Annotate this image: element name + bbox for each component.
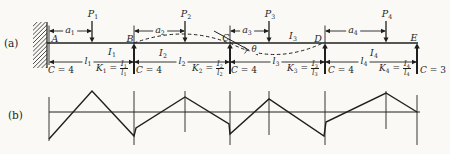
stiffness-factor-K4: K4 = I4l4 <box>379 60 411 77</box>
panel-b-tag: (b) <box>8 110 23 121</box>
load-label-P3: P3 <box>265 9 275 19</box>
segment-label-I4: I4 <box>370 48 378 58</box>
hatch-line <box>21 22 67 68</box>
a-dim-arrow <box>325 29 330 33</box>
carryover-factor-8: C = 3 <box>420 66 446 75</box>
carryover-factor-6: C = 4 <box>328 66 354 75</box>
load-arrow-head <box>90 38 95 43</box>
load-arrow-head <box>384 38 389 43</box>
span-dim-label-l2: l2 <box>176 56 187 66</box>
node-label-D: D <box>314 34 322 44</box>
carryover-factor-0: C = 4 <box>48 66 74 75</box>
load-label-P4: P4 <box>382 9 392 19</box>
a-dim-arrow <box>134 29 139 33</box>
span-dim-label-l4: l4 <box>358 56 369 66</box>
elastic-curve-hump <box>134 34 229 43</box>
a-dim-arrow <box>180 29 185 33</box>
span-dim-label-l1: l1 <box>82 56 93 66</box>
theta-label: θ <box>249 45 258 54</box>
segment-label-I1: I1 <box>108 47 116 57</box>
support-arrow-head <box>414 43 420 48</box>
segment-label-I3: I3 <box>289 31 297 41</box>
a-dim-label-a4: a4 <box>346 25 360 35</box>
hatch-line <box>16 22 62 68</box>
node-label-A: A <box>52 34 59 44</box>
carryover-factor-2: C = 4 <box>136 66 162 75</box>
node-label-E: E <box>411 33 418 43</box>
panel-a-tag: (a) <box>4 38 18 49</box>
node-label-B: B <box>127 34 134 44</box>
span-dim-label-l3: l3 <box>270 56 281 66</box>
a-dim-label-a3: a3 <box>240 25 254 35</box>
load-label-P1: P1 <box>88 9 98 19</box>
stiffness-factor-K2: K2 = I2l2 <box>192 60 224 77</box>
segment-label-I2: I2 <box>159 48 167 58</box>
stiffness-factor-K3: K3 = I3l3 <box>287 60 319 77</box>
elastic-curve-sag <box>230 43 323 55</box>
a-dim-arrow <box>87 29 92 33</box>
carryover-factor-4: C = 4 <box>231 66 257 75</box>
load-arrow-head <box>267 38 272 43</box>
moment-diagram-polyline <box>49 91 417 139</box>
node-label-C: C <box>222 33 229 43</box>
a-dim-arrow <box>264 29 269 33</box>
a-dim-arrow <box>381 29 386 33</box>
beam-moment-figure: ABCDEP1P2P3P4a1a2a3a4l1l2l3l4I1I2I3I4θC … <box>0 0 450 154</box>
support-arrow-head <box>322 43 328 48</box>
load-label-P2: P2 <box>181 9 191 19</box>
a-dim-label-a2: a2 <box>153 25 167 35</box>
load-arrow-head <box>183 38 188 43</box>
stiffness-factor-K1: K1 = I1l1 <box>96 60 128 77</box>
a-dim-arrow <box>230 29 235 33</box>
a-dim-label-a1: a1 <box>63 25 77 35</box>
